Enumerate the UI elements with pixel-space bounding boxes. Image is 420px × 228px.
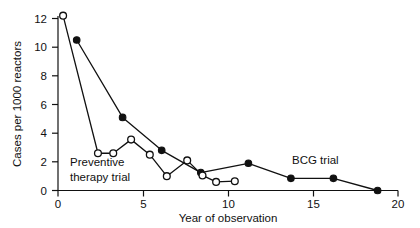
data-point-preventive-therapy-6 <box>184 157 191 164</box>
data-point-preventive-therapy-5 <box>163 173 170 180</box>
y-tick-label-2: 2 <box>41 156 47 168</box>
data-point-bcg-2 <box>158 147 165 154</box>
data-point-bcg-6 <box>330 175 337 182</box>
y-tick-label-12: 12 <box>34 13 47 25</box>
data-point-bcg-5 <box>288 175 295 182</box>
data-point-preventive-therapy-8 <box>213 179 220 186</box>
data-point-preventive-therapy-3 <box>128 136 135 143</box>
x-tick-label-0: 0 <box>55 198 61 210</box>
chart-svg: 0 2 4 6 8 10 12 0 5 10 15 20 Cases per 1… <box>0 0 420 228</box>
y-tick-label-4: 4 <box>41 127 48 139</box>
data-point-preventive-therapy-0 <box>60 12 67 19</box>
x-tick-label-5: 5 <box>140 198 146 210</box>
chart-figure: 0 2 4 6 8 10 12 0 5 10 15 20 Cases per 1… <box>0 0 420 228</box>
data-point-bcg-1 <box>119 114 126 121</box>
y-tick-label-8: 8 <box>41 70 47 82</box>
x-tick-label-20: 20 <box>392 198 405 210</box>
data-point-bcg-4 <box>245 160 252 167</box>
data-point-preventive-therapy-9 <box>231 178 238 185</box>
y-tick-label-0: 0 <box>41 185 47 197</box>
annotation-preventive-line1: Preventive <box>70 156 124 168</box>
data-point-bcg-7 <box>374 187 381 194</box>
annotation-bcg-trial: BCG trial <box>292 154 339 166</box>
y-axis-title: Cases per 1000 reactors <box>11 41 23 167</box>
data-point-preventive-therapy-4 <box>146 151 153 158</box>
data-point-bcg-0 <box>73 37 80 44</box>
data-point-preventive-therapy-7 <box>199 172 206 179</box>
y-tick-label-10: 10 <box>34 41 47 53</box>
x-tick-label-15: 15 <box>307 198 320 210</box>
x-tick-label-10: 10 <box>222 198 235 210</box>
y-tick-label-6: 6 <box>41 99 47 111</box>
x-axis-title: Year of observation <box>179 212 278 224</box>
annotation-preventive-line2: therapy trial <box>70 171 130 183</box>
